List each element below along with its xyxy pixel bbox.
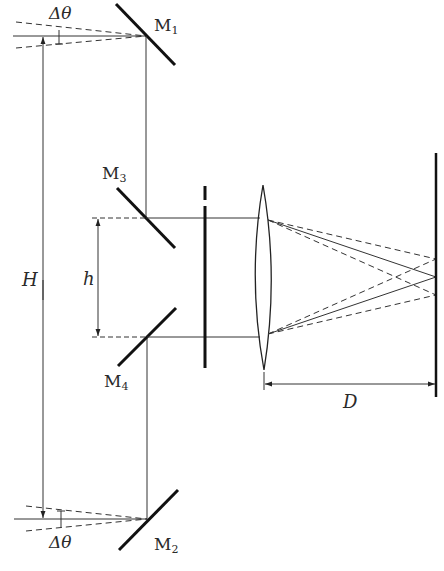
label-m2-sub: 2 xyxy=(171,543,178,556)
label-m1-base: M xyxy=(154,15,171,35)
label-m4-base: M xyxy=(104,371,121,391)
label-m1-sub: 1 xyxy=(171,24,178,37)
optical-diagram: Δθ Δθ M1 M2 M3 M4 H h D xyxy=(0,0,444,571)
label-m3-sub: 3 xyxy=(119,172,126,185)
label-m2: M2 xyxy=(154,536,178,553)
label-delta-theta-bottom: Δθ xyxy=(49,534,72,551)
label-delta-theta-top: Δθ xyxy=(49,5,72,22)
diagram-canvas xyxy=(0,0,444,571)
converging-lens xyxy=(255,185,271,370)
label-d: D xyxy=(343,393,357,411)
label-m3: M3 xyxy=(102,165,126,182)
label-m3-base: M xyxy=(102,163,119,183)
focused-rays xyxy=(268,220,436,334)
label-m1: M1 xyxy=(154,17,178,34)
label-m2-base: M xyxy=(154,534,171,554)
label-small-h: h xyxy=(83,270,95,288)
top-input-rays xyxy=(13,22,146,48)
bottom-input-rays xyxy=(14,506,147,531)
label-m4: M4 xyxy=(104,373,128,390)
label-m4-sub: 4 xyxy=(121,380,128,393)
label-big-h: H xyxy=(22,271,38,289)
